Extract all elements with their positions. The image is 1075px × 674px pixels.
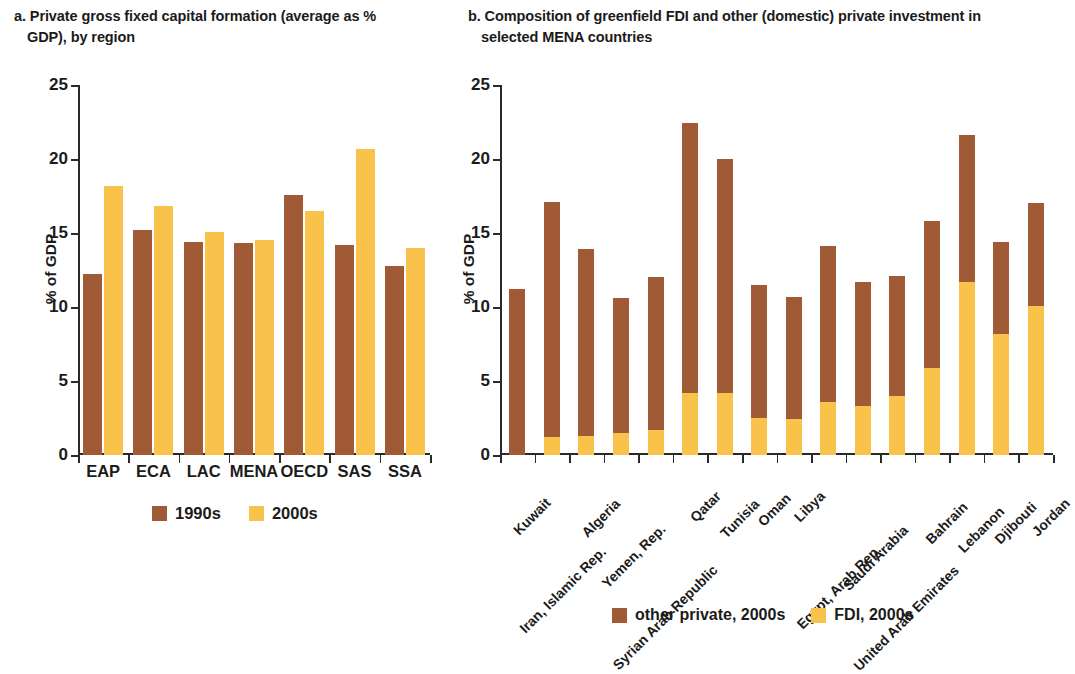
y-tick-label: 5 — [59, 371, 68, 391]
legend-swatch — [811, 608, 826, 623]
bar-segment — [993, 334, 1009, 455]
bar-segment — [509, 289, 525, 455]
bar-segment — [613, 298, 629, 433]
y-tick-label: 15 — [471, 223, 490, 243]
bar — [544, 202, 560, 455]
y-tick-mark — [493, 307, 500, 309]
bar-segment — [751, 418, 767, 455]
panel-b-title-line2: selected MENA countries — [468, 27, 1053, 48]
y-tick-label: 20 — [49, 149, 68, 169]
y-tick-mark — [493, 233, 500, 235]
x-tick-label: Kuwait — [543, 462, 587, 506]
bar-segment — [682, 393, 698, 455]
x-tick-mark — [1053, 455, 1055, 463]
legend-item: 1990s — [152, 504, 221, 523]
y-tick-mark — [493, 85, 500, 87]
bar-group — [707, 85, 742, 455]
bar-group — [638, 85, 673, 455]
bar — [578, 249, 594, 455]
bar-segment — [544, 437, 560, 455]
bar-group — [811, 85, 846, 455]
x-tick-label: ECA — [136, 462, 171, 481]
y-tick-mark — [493, 455, 500, 457]
y-tick-mark — [71, 85, 78, 87]
bar-segment — [578, 249, 594, 435]
bar-group — [949, 85, 984, 455]
bar — [717, 159, 733, 455]
bar — [959, 135, 975, 455]
bar — [924, 221, 940, 455]
legend-label: 2000s — [272, 504, 318, 523]
bar-group — [229, 85, 279, 455]
panel-a-title-line2: GDP), by region — [14, 27, 429, 48]
bar-segment — [820, 246, 836, 401]
bar-group — [179, 85, 229, 455]
bar — [1028, 203, 1044, 455]
y-tick-label: 15 — [49, 223, 68, 243]
bar — [205, 232, 224, 455]
bar — [889, 276, 905, 455]
legend-swatch — [249, 506, 264, 521]
y-tick-label: 25 — [471, 75, 490, 95]
bar-group — [128, 85, 178, 455]
bar-group — [279, 85, 329, 455]
bar-group — [569, 85, 604, 455]
bar-group — [742, 85, 777, 455]
bar — [284, 195, 303, 455]
x-axis-labels-a: EAPECALACMENAOECDSASSSA — [78, 462, 430, 492]
bar-segment — [993, 242, 1009, 334]
bar — [305, 211, 324, 455]
legend-label: FDI, 2000s — [834, 606, 913, 624]
bar-group — [846, 85, 881, 455]
legend-swatch — [152, 506, 167, 521]
x-tick-label: LAC — [187, 462, 221, 481]
bar-group — [880, 85, 915, 455]
bar-group — [777, 85, 812, 455]
y-tick-mark — [71, 307, 78, 309]
bar-segment — [820, 402, 836, 455]
bar-segment — [889, 276, 905, 396]
y-tick-mark — [71, 455, 78, 457]
panel-b-title-line1: b. Composition of greenfield FDI and oth… — [468, 8, 981, 24]
legend-item: 2000s — [249, 504, 318, 523]
y-tick-label: 20 — [471, 149, 490, 169]
bar-segment — [751, 285, 767, 418]
bars-b — [500, 85, 1053, 455]
bar — [993, 242, 1009, 455]
x-tick-label: MENA — [230, 462, 279, 481]
legend-label: 1990s — [175, 504, 221, 523]
legend-b: other private, 2000sFDI, 2000s — [612, 606, 913, 624]
bar-segment — [613, 433, 629, 455]
bar-group — [673, 85, 708, 455]
panel-a: a. Private gross fixed capital formation… — [0, 0, 460, 636]
bar-segment — [786, 297, 802, 420]
bar — [648, 277, 664, 455]
plot-area-a: % of GDP 0510152025 — [78, 85, 430, 455]
x-tick-label: SAS — [338, 462, 372, 481]
y-tick-label: 10 — [49, 297, 68, 317]
y-tick-mark — [71, 233, 78, 235]
bar — [613, 298, 629, 455]
bar-group — [984, 85, 1019, 455]
x-tick-label-text: Kuwait — [510, 494, 554, 538]
y-tick-mark — [493, 381, 500, 383]
panel-a-title: a. Private gross fixed capital formation… — [14, 6, 429, 47]
bar — [356, 149, 375, 455]
bar — [154, 206, 173, 455]
y-tick-mark — [71, 159, 78, 161]
bar-segment — [682, 123, 698, 392]
bar — [335, 245, 354, 455]
bar — [751, 285, 767, 455]
bar — [820, 246, 836, 455]
y-tick-label: 0 — [59, 445, 68, 465]
bar — [855, 282, 871, 455]
bar — [786, 297, 802, 455]
bar — [184, 242, 203, 455]
y-tick-mark — [71, 381, 78, 383]
bar-group — [535, 85, 570, 455]
bar-segment — [855, 282, 871, 406]
y-tick-label: 5 — [481, 371, 490, 391]
bar-group — [604, 85, 639, 455]
x-tick-label-text: Saudi Arabia — [840, 522, 911, 593]
bar — [385, 266, 404, 455]
